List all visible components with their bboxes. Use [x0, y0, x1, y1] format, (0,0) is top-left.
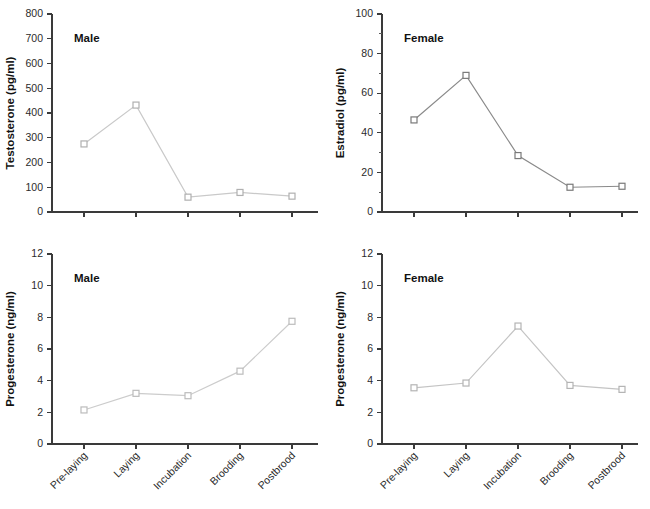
y-tick-label: 20	[361, 166, 373, 178]
panel-annotation: Male	[74, 272, 100, 284]
data-point-marker	[411, 385, 417, 391]
y-tick-label: 8	[367, 311, 373, 323]
y-tick-label: 2	[367, 406, 373, 418]
y-tick-label: 0	[37, 437, 43, 449]
x-tick-label: Pre-laying	[377, 449, 419, 491]
x-tick-label: Incubation	[151, 449, 194, 492]
panel-estradiol-female: 020406080100Estradiol (pg/ml)Female	[330, 0, 650, 250]
panel-testosterone-male: 0100200300400500600700800Testosterone (p…	[0, 0, 330, 250]
panel-annotation: Female	[404, 32, 444, 44]
data-line	[84, 105, 292, 197]
y-tick-label: 600	[25, 57, 43, 69]
x-tick-label: Pre-laying	[47, 449, 89, 491]
y-tick-label: 700	[25, 32, 43, 44]
y-tick-label: 12	[361, 247, 373, 259]
hormone-figure: 0100200300400500600700800Testosterone (p…	[0, 0, 650, 509]
chart-testosterone-male: 0100200300400500600700800Testosterone (p…	[0, 0, 330, 250]
y-tick-label: 500	[25, 82, 43, 94]
y-tick-label: 6	[37, 342, 43, 354]
y-tick-label: 400	[25, 106, 43, 118]
chart-progesterone-male: 024681012Pre-layingLayingIncubationBrood…	[0, 240, 330, 509]
chart-progesterone-female: 024681012Pre-layingLayingIncubationBrood…	[330, 240, 650, 509]
y-tick-label: 0	[37, 205, 43, 217]
y-axis-title: Progesterone (ng/ml)	[334, 291, 346, 407]
data-point-marker	[133, 390, 139, 396]
y-axis-title: Progesterone (ng/ml)	[4, 291, 16, 407]
data-point-marker	[619, 183, 625, 189]
y-tick-label: 100	[355, 7, 373, 19]
y-tick-label: 8	[37, 311, 43, 323]
data-point-marker	[185, 393, 191, 399]
data-line	[414, 75, 622, 187]
y-tick-label: 10	[31, 279, 43, 291]
data-point-marker	[237, 189, 243, 195]
panel-annotation: Female	[404, 272, 444, 284]
y-axis-title: Testosterone (pg/ml)	[4, 56, 16, 169]
x-tick-label: Postbrood	[255, 449, 297, 491]
data-line	[414, 326, 622, 389]
data-point-marker	[81, 141, 87, 147]
data-point-marker	[133, 102, 139, 108]
y-tick-label: 60	[361, 86, 373, 98]
y-tick-label: 300	[25, 131, 43, 143]
y-tick-label: 80	[361, 47, 373, 59]
x-tick-label: Postbrood	[585, 449, 627, 491]
x-tick-label: Brooding	[207, 449, 245, 487]
panel-progesterone-female: 024681012Pre-layingLayingIncubationBrood…	[330, 240, 650, 509]
data-point-marker	[463, 380, 469, 386]
panel-progesterone-male: 024681012Pre-layingLayingIncubationBrood…	[0, 240, 330, 509]
data-point-marker	[463, 72, 469, 78]
chart-estradiol-female: 020406080100Estradiol (pg/ml)Female	[330, 0, 650, 250]
data-point-marker	[567, 382, 573, 388]
data-point-marker	[411, 117, 417, 123]
x-tick-label: Laying	[111, 449, 141, 479]
data-point-marker	[81, 407, 87, 413]
x-tick-label: Incubation	[481, 449, 524, 492]
data-point-marker	[289, 318, 295, 324]
y-tick-label: 10	[361, 279, 373, 291]
y-tick-label: 0	[367, 205, 373, 217]
data-point-marker	[237, 368, 243, 374]
data-point-marker	[619, 386, 625, 392]
x-tick-label: Laying	[441, 449, 471, 479]
y-tick-label: 0	[367, 437, 373, 449]
data-point-marker	[567, 184, 573, 190]
y-axis-title: Estradiol (pg/ml)	[334, 67, 346, 158]
data-point-marker	[515, 153, 521, 159]
y-tick-label: 2	[37, 406, 43, 418]
data-point-marker	[515, 323, 521, 329]
data-point-marker	[289, 193, 295, 199]
data-point-marker	[185, 194, 191, 200]
y-tick-label: 100	[25, 181, 43, 193]
y-tick-label: 6	[367, 342, 373, 354]
y-tick-label: 800	[25, 7, 43, 19]
y-tick-label: 40	[361, 126, 373, 138]
y-tick-label: 4	[37, 374, 43, 386]
x-tick-label: Brooding	[537, 449, 575, 487]
panel-annotation: Male	[74, 32, 100, 44]
y-tick-label: 12	[31, 247, 43, 259]
y-tick-label: 4	[367, 374, 373, 386]
y-tick-label: 200	[25, 156, 43, 168]
